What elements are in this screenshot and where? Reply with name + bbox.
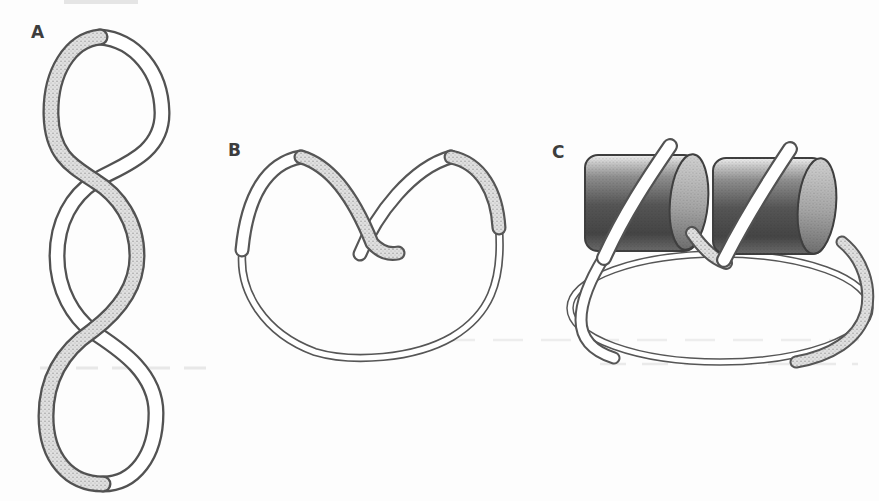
ribbon-right-peak-outer [451,157,499,228]
panel-a-label: A [31,22,45,42]
ribbon-supercoiling-figure [0,0,879,501]
ribbon-strand-white [57,37,162,484]
panel-c-label: C [552,142,565,162]
panel-b-label: B [228,140,241,160]
plectonemic-supercoiled-ribbon [46,37,162,484]
ribbon-lower-loop [570,254,870,362]
ribbon-left-peak-outer [242,157,301,250]
folded-ribbon-loop [242,157,500,358]
scanned-figure-page: A B C [0,0,879,501]
ribbon-wrapped-around-two-cylinders [570,146,870,362]
